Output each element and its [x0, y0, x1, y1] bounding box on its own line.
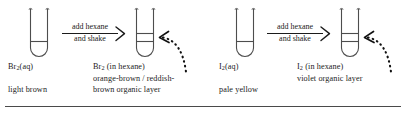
iodine-aqueous-formula: I2(aq): [219, 62, 239, 74]
reaction-condition-1: add hexane: [62, 22, 118, 32]
bromine-aqueous-colour: light brown: [8, 85, 47, 96]
reaction-condition-2b: and shake: [267, 34, 323, 44]
bromine-aqueous-formula: Br2(aq): [8, 62, 33, 74]
reaction-condition-2-line1: add hexane: [267, 22, 323, 32]
bromine-hexane-colour-line2: brown organic layer: [93, 85, 161, 96]
bottom-divider: [5, 106, 401, 107]
bromine-hexane-formula-state: (in hexane): [105, 62, 145, 71]
reaction-condition-1b: and shake: [62, 34, 118, 44]
reaction-condition-2: add hexane: [267, 22, 323, 32]
bromine-hexane-formula: Br2 (in hexane): [93, 62, 145, 74]
bromine-hexane-colour-line1: orange-brown / reddish-: [93, 74, 174, 85]
reaction-condition-1-line1: add hexane: [62, 22, 118, 32]
reaction-condition-1-line2: and shake: [62, 34, 118, 44]
iodine-aqueous-colour: pale yellow: [219, 85, 258, 96]
bromine-aqueous-formula-state: (aq): [20, 62, 34, 71]
iodine-hexane-formula-state: (in hexane): [303, 62, 343, 71]
iodine-hexane-formula: I2 (in hexane): [297, 62, 343, 74]
iodine-hexane-colour-line1: violet organic layer: [297, 74, 363, 85]
iodine-aqueous-formula-state: (aq): [225, 62, 239, 71]
figure-text-layer: add hexane and shake Br2(aq) light brown…: [0, 0, 406, 114]
chemistry-figure: add hexane and shake Br2(aq) light brown…: [0, 0, 406, 114]
reaction-condition-2-line2: and shake: [267, 34, 323, 44]
